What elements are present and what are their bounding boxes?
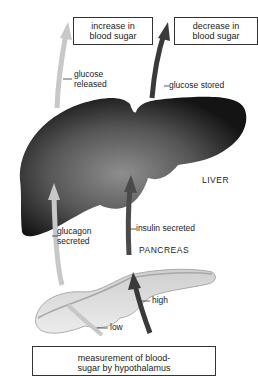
glucose-stored-label: glucose stored xyxy=(169,81,224,91)
glucose-released-label: glucose released xyxy=(74,70,107,89)
hypothalamus-box: measurement of blood- sugar by hypothala… xyxy=(32,346,216,376)
liver-label: LIVER xyxy=(202,175,229,185)
low-label: low xyxy=(110,323,123,333)
glucagon-line2: secreted xyxy=(57,237,92,247)
high-label: high xyxy=(152,296,168,306)
glucose-stored-arrow xyxy=(152,22,170,98)
glucose-released-arrow xyxy=(57,22,72,108)
decrease-line2: blood sugar xyxy=(175,31,257,41)
pancreas-label: PANCREAS xyxy=(139,245,189,255)
glucagon-secreted-label: glucagon secreted xyxy=(57,227,92,246)
increase-blood-sugar-box: increase in blood sugar xyxy=(73,17,153,45)
decrease-blood-sugar-box: decrease in blood sugar xyxy=(174,17,258,45)
insulin-secreted-label: insulin secreted xyxy=(136,224,195,234)
hypothalamus-line2: sugar by hypothalamus xyxy=(33,363,215,373)
increase-line2: blood sugar xyxy=(74,31,152,41)
hypothalamus-line1: measurement of blood- xyxy=(33,353,215,363)
increase-line1: increase in xyxy=(74,21,152,31)
glucose-released-line2: released xyxy=(74,80,107,90)
decrease-line1: decrease in xyxy=(175,21,257,31)
